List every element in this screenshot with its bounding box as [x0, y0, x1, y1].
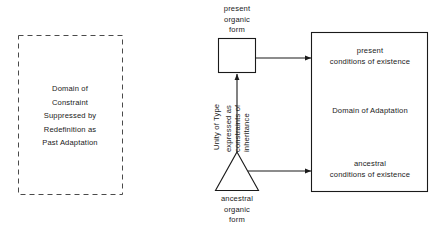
present-organic-form-square	[219, 39, 256, 73]
constraints-of-label: constraints of	[233, 105, 242, 152]
dashed-constraint-box-caption: Domain of Constraint Suppressed by Redef…	[18, 82, 122, 150]
inheritance-label: inheritance	[242, 113, 251, 152]
domain-of-adaptation-caption: Domain of Adaptation	[313, 106, 427, 117]
unity-of-type-label: Unity of Type	[212, 104, 221, 150]
expressed-as-label: expressed as	[224, 105, 233, 152]
present-organic-form-caption: present organic form	[200, 4, 274, 36]
present-conditions-of-existence-caption: present conditions of existence	[313, 45, 427, 67]
ancestral-organic-form-caption: ancestral organic form	[199, 194, 275, 226]
ancestral-conditions-of-existence-caption: ancestral conditions of existence	[313, 158, 427, 180]
diagram-canvas: Domain of Constraint Suppressed by Redef…	[0, 0, 437, 233]
